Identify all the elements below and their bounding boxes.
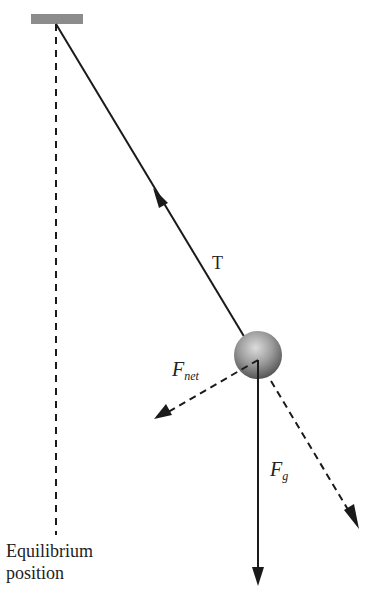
gravity-force-label: Fg (270, 458, 288, 484)
ceiling-support (31, 14, 83, 24)
pendulum-string (56, 24, 245, 338)
equilibrium-label-line1: Equilibrium (6, 540, 93, 562)
equilibrium-label-line2: position (6, 562, 93, 584)
tension-label: T (212, 253, 223, 274)
net-force-arrowhead (154, 404, 172, 419)
pendulum-diagram (0, 0, 376, 607)
gravity-force-symbol: F (270, 458, 282, 480)
tangential-component-vector (271, 381, 350, 513)
net-force-symbol: F (172, 358, 184, 380)
gravity-force-subscript: g (282, 469, 288, 483)
equilibrium-label: Equilibrium position (6, 540, 93, 584)
net-force-subscript: net (184, 369, 199, 383)
net-force-label: Fnet (172, 358, 199, 384)
gravity-arrowhead (252, 567, 264, 586)
